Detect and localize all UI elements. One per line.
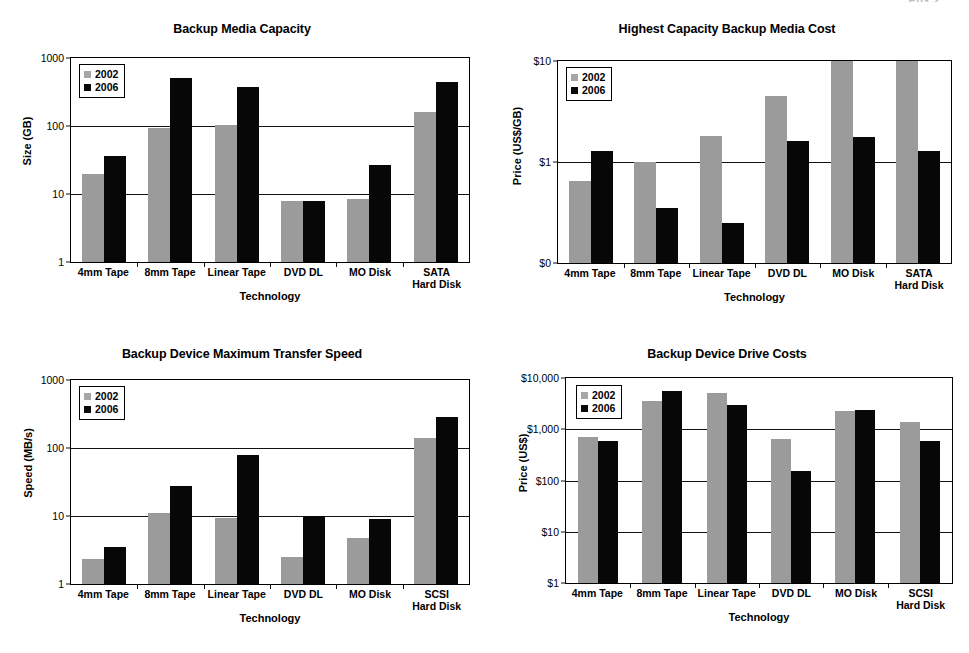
x-tick-label: DVD DL <box>270 588 337 612</box>
y-tick-label: $1 <box>547 577 559 589</box>
bar-group <box>759 378 823 583</box>
bar-2002 <box>896 61 918 263</box>
plot-area: 2002 2006 1101001000 <box>70 379 470 585</box>
bar-group <box>204 380 270 584</box>
x-tick-labels: 4mm Tape8mm TapeLinear TapeDVD DLMO Disk… <box>565 587 953 611</box>
x-tick-label: MO Disk <box>824 587 889 611</box>
bar-2006 <box>170 78 192 262</box>
legend-swatch-2006-icon <box>84 406 91 413</box>
bar-series-container <box>71 380 469 584</box>
y-tick-label: $0 <box>539 257 551 269</box>
bar-series-container <box>558 61 951 263</box>
y-tick-label: $100 <box>536 475 559 487</box>
bar-2002 <box>578 437 598 583</box>
bar-2002 <box>707 393 727 583</box>
legend: 2002 2006 <box>79 64 125 98</box>
x-tick-label: SATA Hard Disk <box>886 267 952 291</box>
chart-title: Backup Media Capacity <box>0 22 484 36</box>
bar-2002 <box>215 125 237 262</box>
x-tick-label: Linear Tape <box>203 588 270 612</box>
x-tick-label: 4mm Tape <box>70 588 137 612</box>
x-tick-label: Linear Tape <box>694 587 759 611</box>
bar-group <box>137 380 203 584</box>
chart-backup-device-drive-costs: Backup Device Drive Costs Price (US$) 20… <box>485 327 969 653</box>
legend-item-2002: 2002 <box>581 389 615 402</box>
y-axis-title: Price (US$/GB) <box>511 98 523 194</box>
bar-2006 <box>855 410 875 583</box>
bar-2002 <box>148 128 170 262</box>
bar-2002 <box>700 136 722 263</box>
bar-2006 <box>237 455 259 584</box>
bar-group <box>137 58 203 262</box>
x-tick-label: DVD DL <box>759 587 824 611</box>
y-tick-label: 1000 <box>41 374 64 386</box>
x-tick-label: Linear Tape <box>203 266 270 290</box>
x-tick-label: 8mm Tape <box>630 587 695 611</box>
bar-2006 <box>787 141 809 263</box>
legend-label-2002: 2002 <box>95 68 118 81</box>
x-tick-label: 8mm Tape <box>137 266 204 290</box>
bar-2002 <box>347 199 369 262</box>
legend-swatch-2002-icon <box>84 393 91 400</box>
bar-2006 <box>369 519 391 584</box>
legend-item-2006: 2006 <box>84 81 118 94</box>
chart-title: Highest Capacity Backup Media Cost <box>485 22 969 36</box>
bar-series-container <box>71 58 469 262</box>
legend-swatch-2006-icon <box>84 84 91 91</box>
bar-group <box>823 378 887 583</box>
bar-2002 <box>347 538 369 584</box>
bar-2002 <box>831 61 853 263</box>
bar-series-container <box>566 378 952 583</box>
bar-2006 <box>791 471 811 583</box>
y-tick-label: $1 <box>539 156 551 168</box>
bar-2006 <box>303 201 325 262</box>
y-tick-label: 1 <box>58 256 64 268</box>
x-tick-label: MO Disk <box>820 267 886 291</box>
bar-group <box>270 380 336 584</box>
bar-group <box>755 61 821 263</box>
plot-area: 2002 2006 1101001000 <box>70 57 470 263</box>
legend-label-2006: 2006 <box>592 402 615 415</box>
x-axis-title: Technology <box>70 612 470 624</box>
bar-2006 <box>104 156 126 262</box>
x-axis-title: Technology <box>565 611 953 623</box>
bar-2002 <box>281 201 303 262</box>
x-tick-labels: 4mm Tape8mm TapeLinear TapeDVD DLMO Disk… <box>70 588 470 612</box>
x-tick-label: DVD DL <box>270 266 337 290</box>
bar-2002 <box>835 411 855 583</box>
bar-2002 <box>569 181 591 263</box>
bar-2006 <box>436 417 458 584</box>
y-tick-label: 1 <box>58 578 64 590</box>
bar-2006 <box>722 223 744 263</box>
legend: 2002 2006 <box>79 386 125 420</box>
bar-group <box>336 58 402 262</box>
bar-2006 <box>656 208 678 263</box>
legend-label-2002: 2002 <box>582 71 605 84</box>
x-tick-label: 8mm Tape <box>623 267 689 291</box>
bar-2006 <box>662 391 682 583</box>
bar-group <box>630 378 694 583</box>
bar-2006 <box>237 87 259 262</box>
x-tick-label: MO Disk <box>337 588 404 612</box>
legend-item-2006: 2006 <box>84 403 118 416</box>
legend-label-2006: 2006 <box>95 403 118 416</box>
bar-2002 <box>634 162 656 263</box>
bar-group <box>689 61 755 263</box>
bar-2002 <box>82 559 104 584</box>
x-tick-label: 4mm Tape <box>557 267 623 291</box>
x-axis-title: Technology <box>557 291 952 303</box>
bar-2002 <box>642 401 662 583</box>
legend-label-2002: 2002 <box>95 390 118 403</box>
legend: 2002 2006 <box>576 385 622 419</box>
x-tick-labels: 4mm Tape8mm TapeLinear TapeDVD DLMO Disk… <box>70 266 470 290</box>
bar-group <box>204 58 270 262</box>
bar-2006 <box>303 516 325 584</box>
bar-2002 <box>148 513 170 584</box>
legend-item-2006: 2006 <box>581 402 615 415</box>
legend-swatch-2002-icon <box>581 392 588 399</box>
bar-2006 <box>591 151 613 264</box>
x-tick-label: SCSI Hard Disk <box>888 587 953 611</box>
bar-2002 <box>414 438 436 584</box>
bar-2006 <box>727 405 747 583</box>
legend-swatch-2006-icon <box>581 405 588 412</box>
